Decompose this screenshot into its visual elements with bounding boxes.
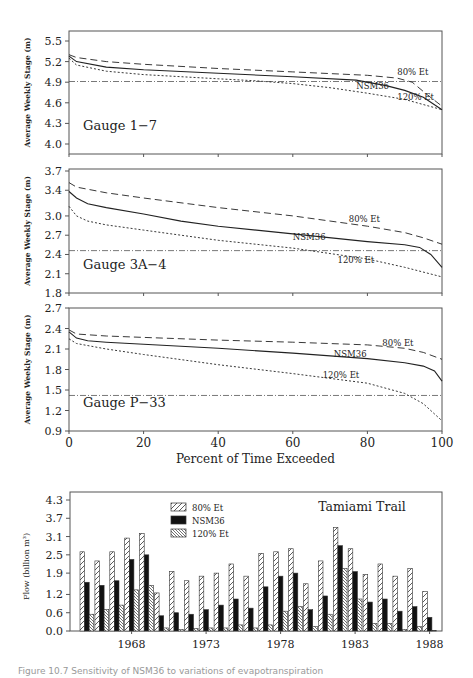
bar-80-et	[378, 564, 383, 631]
bar-80-et	[363, 575, 368, 631]
y-tick-label: 4.3	[45, 117, 63, 130]
series-annotation: NSM36	[356, 81, 389, 91]
legend-swatch	[171, 516, 186, 524]
bar-120-et	[268, 625, 273, 631]
bar-group-1983	[348, 549, 362, 631]
bar-group-1980	[304, 584, 318, 631]
bar-nsm36	[129, 559, 134, 631]
bar-nsm36	[308, 610, 313, 631]
bar-120-et	[298, 607, 303, 631]
y-tick-label: 3.7	[45, 165, 63, 178]
bar-80-et	[140, 534, 145, 631]
bar-group-1988	[423, 591, 437, 631]
bar-120-et	[253, 628, 258, 631]
bar-80-et	[393, 576, 398, 631]
bar-nsm36	[219, 605, 224, 631]
y-axis-label: Average Weekly Stage (m)	[23, 38, 32, 149]
gauge-label: Gauge 3A−4	[83, 257, 166, 272]
figure-caption: Figure 10.7 Sensitivity of NSM36 to vari…	[18, 666, 458, 678]
bar-group-1973	[199, 576, 213, 631]
plot-frame	[69, 31, 442, 154]
x-tick-label: 1988	[416, 638, 444, 651]
bar-nsm36	[293, 573, 298, 631]
line-panel-2: 3.73.43.02.72.42.11.880% EtNSM36120% EtG…	[23, 165, 442, 300]
bar-nsm36	[234, 599, 239, 631]
x-tick-label: 80	[360, 436, 375, 450]
y-tick-label: 4.3	[46, 494, 64, 507]
x-tick-label: 1973	[192, 638, 220, 651]
bar-group-1978	[274, 552, 288, 631]
bar-120-et	[343, 569, 348, 631]
bar-group-1985	[378, 564, 392, 631]
figure-svg: 5.55.24.94.64.34.080% EtNSM36120% EtGaug…	[0, 0, 473, 678]
legend-swatch	[171, 503, 186, 511]
y-tick-label: 2.5	[46, 549, 64, 562]
bar-group-1971	[169, 572, 183, 631]
bar-120-et	[119, 605, 124, 631]
bar-nsm36	[263, 587, 268, 631]
bar-80-et	[155, 593, 160, 631]
bar-80-et	[244, 576, 249, 631]
bar-group-1974	[214, 573, 228, 631]
y-tick-label: 1.8	[45, 287, 63, 300]
series-annotation: 80% Et	[382, 338, 414, 348]
bar-nsm36	[383, 599, 388, 631]
bar-nsm36	[412, 607, 417, 631]
y-tick-label: 1.8	[45, 364, 63, 377]
chart-title: Tamiami Trail	[318, 499, 406, 514]
tamiami-flow-bar-chart: 0.00.61.21.92.53.13.74.31968197319781983…	[22, 492, 444, 651]
bar-nsm36	[100, 585, 105, 631]
bar-80-et	[214, 573, 219, 631]
bar-80-et	[274, 552, 279, 631]
legend-swatch	[171, 529, 186, 537]
bar-120-et	[223, 628, 228, 631]
bar-120-et	[328, 614, 333, 631]
y-tick-label: 0.9	[45, 425, 63, 438]
y-tick-label: 3.1	[46, 531, 64, 544]
y-tick-label: 3.4	[45, 184, 63, 197]
bar-120-et	[417, 626, 422, 631]
legend-label: 120% Et	[192, 529, 229, 539]
x-tick-label: 1983	[341, 638, 369, 651]
bar-120-et	[89, 614, 94, 631]
x-tick-label: 100	[431, 436, 454, 450]
y-tick-label: 4.0	[45, 138, 63, 151]
bar-120-et	[208, 628, 213, 631]
bar-120-et	[283, 611, 288, 631]
bar-group-1975	[229, 564, 243, 631]
plot-frame	[69, 169, 442, 293]
bar-120-et	[432, 630, 437, 631]
y-tick-label: 5.5	[45, 35, 63, 48]
y-tick-label: 4.6	[45, 97, 63, 110]
bar-nsm36	[174, 613, 179, 631]
bar-nsm36	[323, 596, 328, 631]
series-annotation: NSM36	[293, 232, 326, 242]
bar-group-1976	[244, 576, 258, 631]
series-annotation: 120% Et	[338, 255, 375, 265]
x-tick-label: 1978	[267, 638, 295, 651]
bar-group-1969	[140, 534, 154, 631]
bar-120-et	[134, 590, 139, 631]
bar-group-1965	[80, 552, 94, 631]
bar-80-et	[125, 538, 130, 631]
bar-80-et	[259, 553, 264, 631]
bar-group-1977	[259, 553, 273, 631]
y-tick-label: 2.4	[45, 248, 63, 261]
bar-80-et	[304, 584, 309, 631]
bar-120-et	[149, 585, 154, 631]
bar-group-1984	[363, 575, 377, 631]
bar-120-et	[194, 629, 199, 631]
bar-nsm36	[278, 576, 283, 631]
y-tick-label: 1.2	[46, 588, 64, 601]
bar-group-1979	[289, 549, 303, 631]
bar-80-et	[408, 569, 413, 631]
bar-120-et	[164, 628, 169, 631]
bar-80-et	[95, 561, 100, 631]
y-tick-label: 4.9	[45, 76, 63, 89]
figure: 5.55.24.94.64.34.080% EtNSM36120% EtGaug…	[0, 0, 473, 678]
legend-label: 80% Et	[192, 503, 224, 513]
y-tick-label: 2.7	[45, 302, 63, 315]
bar-80-et	[289, 549, 294, 631]
x-tick-label: 20	[136, 436, 151, 450]
bar-120-et	[313, 626, 318, 631]
